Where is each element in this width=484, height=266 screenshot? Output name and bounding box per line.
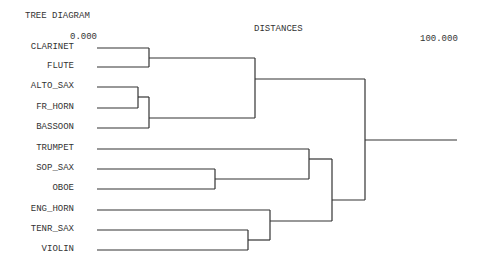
dendrogram-tree [0, 0, 484, 266]
